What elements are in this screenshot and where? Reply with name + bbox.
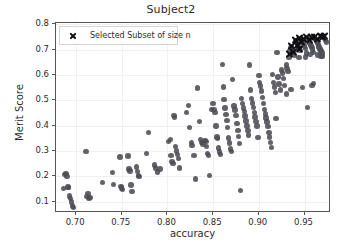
data-point-marker xyxy=(237,141,242,146)
data-point-marker xyxy=(254,123,259,128)
x-tick-mark xyxy=(75,212,76,215)
gridline-horizontal xyxy=(56,151,329,152)
data-point-marker xyxy=(129,189,134,194)
data-point-marker xyxy=(186,103,191,108)
data-point-marker xyxy=(221,84,226,89)
data-point-marker xyxy=(309,83,314,88)
x-tick-mark xyxy=(121,212,122,215)
data-point-marker xyxy=(193,176,198,181)
data-point-marker xyxy=(87,195,92,200)
data-point-marker xyxy=(281,76,286,81)
data-point-marker xyxy=(282,83,287,88)
data-point-marker xyxy=(285,69,290,74)
y-tick-mark xyxy=(52,201,55,202)
data-point-marker xyxy=(127,168,132,173)
data-point-marker xyxy=(210,101,215,106)
data-point-marker xyxy=(170,161,175,166)
data-point-marker xyxy=(260,95,265,100)
data-point-marker xyxy=(225,125,230,130)
x-tick-label: 0.85 xyxy=(203,217,222,227)
plot-area xyxy=(55,22,330,212)
data-point-marker xyxy=(247,62,252,67)
y-tick-label: 0.5 xyxy=(22,94,49,104)
selected-point-marker xyxy=(285,49,294,58)
data-point-marker xyxy=(227,140,232,145)
data-point-marker xyxy=(288,87,293,92)
data-point-marker xyxy=(235,128,240,133)
y-tick-mark xyxy=(52,99,55,100)
y-tick-label: 0.1 xyxy=(22,196,49,206)
gridline-vertical xyxy=(167,23,168,211)
data-point-marker xyxy=(234,121,239,126)
y-tick-mark xyxy=(52,23,55,24)
data-point-marker xyxy=(318,54,323,59)
y-tick-mark xyxy=(52,49,55,50)
data-point-marker xyxy=(259,88,264,93)
y-tick-mark xyxy=(52,74,55,75)
data-point-marker xyxy=(236,134,241,139)
y-tick-mark xyxy=(52,175,55,176)
data-point-marker xyxy=(83,149,88,154)
data-point-marker xyxy=(212,110,217,115)
y-tick-label: 0.6 xyxy=(22,69,49,79)
y-tick-label: 0.2 xyxy=(22,170,49,180)
data-point-marker xyxy=(276,81,281,86)
data-point-marker xyxy=(215,136,220,141)
data-point-marker xyxy=(305,105,310,110)
x-tick-mark xyxy=(166,212,167,215)
y-tick-mark xyxy=(52,150,55,151)
selected-point-marker xyxy=(320,31,329,40)
data-point-marker xyxy=(246,132,251,137)
y-tick-mark xyxy=(52,125,55,126)
data-point-marker xyxy=(222,105,227,110)
data-point-marker xyxy=(273,116,278,121)
gridline-horizontal xyxy=(56,75,329,76)
data-point-marker xyxy=(269,145,274,150)
data-point-marker xyxy=(223,112,228,117)
legend-entry-label: Selected Subset of size n xyxy=(90,31,191,40)
page-title: Subject2 xyxy=(0,3,342,16)
data-point-marker xyxy=(120,187,125,192)
data-point-marker xyxy=(238,188,243,193)
y-tick-label: 0.4 xyxy=(22,120,49,130)
y-tick-label: 0.3 xyxy=(22,145,49,155)
data-point-marker xyxy=(206,153,211,158)
gridline-vertical xyxy=(213,23,214,211)
data-point-marker xyxy=(128,182,133,187)
data-point-marker xyxy=(221,97,226,102)
data-point-marker xyxy=(233,113,238,118)
data-point-marker xyxy=(187,125,192,130)
data-point-marker xyxy=(204,144,209,149)
data-point-marker xyxy=(168,153,173,158)
data-point-marker xyxy=(100,180,105,185)
data-point-marker xyxy=(224,118,229,123)
y-tick-label: 0.7 xyxy=(22,44,49,54)
data-point-marker xyxy=(218,152,223,157)
x-marker-icon xyxy=(69,32,77,40)
x-tick-mark xyxy=(304,212,305,215)
data-point-marker xyxy=(157,166,162,171)
x-tick-mark xyxy=(212,212,213,215)
data-point-marker xyxy=(172,115,177,120)
x-tick-mark xyxy=(258,212,259,215)
data-point-marker xyxy=(189,143,194,148)
data-point-marker xyxy=(274,50,279,55)
data-point-marker xyxy=(232,107,237,112)
data-point-marker xyxy=(184,110,189,115)
data-point-marker xyxy=(256,73,261,78)
data-point-marker xyxy=(265,124,270,129)
x-tick-label: 0.90 xyxy=(248,217,267,227)
data-point-marker xyxy=(144,151,149,156)
x-tick-label: 0.80 xyxy=(157,217,176,227)
x-tick-label: 0.75 xyxy=(111,217,130,227)
gridline-vertical xyxy=(76,23,77,211)
gridline-horizontal xyxy=(56,126,329,127)
data-point-marker xyxy=(66,185,71,190)
y-tick-label: 0.8 xyxy=(22,18,49,28)
data-point-marker xyxy=(230,77,235,82)
data-point-marker xyxy=(284,91,289,96)
gridline-horizontal xyxy=(56,202,329,203)
data-point-marker xyxy=(207,173,212,178)
data-point-marker xyxy=(176,156,181,161)
data-point-marker xyxy=(125,153,130,158)
